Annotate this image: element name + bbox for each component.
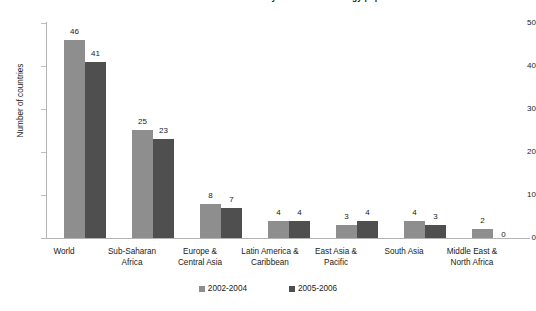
bar-south-asia-2005-2006[interactable]: 3 [425, 225, 446, 238]
x-axis-line [46, 238, 530, 239]
legend-label: 2005-2006 [298, 284, 337, 293]
bar-middle-east-north-africa-2005-2006[interactable]: 0 [493, 237, 514, 238]
bar-value: 7 [229, 196, 233, 204]
bar-europe-central-asia-2005-2006[interactable]: 7 [221, 208, 242, 238]
y-tick-mark [41, 195, 46, 196]
bar-sub-saharan-africa-2005-2006[interactable]: 23 [153, 139, 174, 238]
bar-europe-central-asia-2002-2004[interactable]: 8 [200, 204, 221, 238]
chart-legend: 2002-2004 2005-2006 [0, 284, 536, 293]
chart-title: Number of countries covered by World Ban… [0, 0, 536, 2]
legend-item-2002-2004[interactable]: 2002-2004 [199, 284, 247, 293]
y-tick-mark [41, 23, 46, 24]
legend-label: 2002-2004 [208, 284, 247, 293]
bar-chart-figure: Number of countries covered by World Ban… [0, 0, 536, 311]
x-axis-label-line1: Middle East & [430, 246, 514, 257]
bar-value: 23 [159, 127, 168, 135]
bar-world-2002-2004[interactable]: 46 [64, 40, 85, 238]
bar-latin-america-caribbean-2005-2006[interactable]: 4 [289, 221, 310, 238]
bar-east-asia-pacific-2005-2006[interactable]: 4 [357, 221, 378, 238]
bar-value: 46 [70, 28, 79, 36]
x-axis-label-line2: Pacific [296, 257, 376, 268]
bar-value: 25 [138, 118, 147, 126]
bar-value: 4 [276, 209, 280, 217]
bar-south-asia-2002-2004[interactable]: 4 [404, 221, 425, 238]
y-tick-mark [41, 152, 46, 153]
y-axis-title: Number of countries [16, 21, 25, 181]
bar-value: 3 [433, 213, 437, 221]
bar-middle-east-north-africa-2002-2004[interactable]: 2 [472, 229, 493, 238]
bar-value: 2 [480, 217, 484, 225]
bar-value: 4 [365, 209, 369, 217]
bar-world-2005-2006[interactable]: 41 [85, 62, 106, 238]
legend-swatch-icon [289, 286, 295, 292]
bar-value: 3 [344, 213, 348, 221]
y-tick-mark [41, 238, 46, 239]
legend-item-2005-2006[interactable]: 2005-2006 [289, 284, 337, 293]
bar-value: 8 [208, 192, 212, 200]
x-axis-label-line2: North Africa [430, 257, 514, 268]
bar-east-asia-pacific-2002-2004[interactable]: 3 [336, 225, 357, 238]
bar-value: 4 [412, 209, 416, 217]
bar-latin-america-caribbean-2002-2004[interactable]: 4 [268, 221, 289, 238]
y-tick-mark [41, 109, 46, 110]
y-tick-mark [41, 66, 46, 67]
bar-value: 41 [91, 50, 100, 58]
plot-area: 46 41 25 23 8 [47, 23, 529, 238]
legend-swatch-icon [199, 286, 205, 292]
bar-value: 0 [501, 231, 505, 239]
bar-sub-saharan-africa-2002-2004[interactable]: 25 [132, 130, 153, 238]
bar-value: 4 [297, 209, 301, 217]
x-axis-label-middle-east-north-africa: Middle East & North Africa [430, 246, 514, 268]
